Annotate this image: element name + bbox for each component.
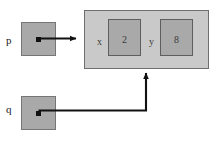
field-value-x: 2	[109, 35, 140, 45]
pointer-label-p: p	[6, 35, 12, 46]
field-label-x: x	[97, 37, 102, 47]
pointer-dot-p	[36, 37, 41, 42]
pointer-dot-q	[36, 111, 41, 116]
pointer-label-q: q	[6, 104, 12, 115]
struct-container[interactable]: x 2 y 8	[84, 10, 209, 69]
pointer-diagram-canvas: p q x 2 y 8	[0, 0, 219, 141]
pointer-box-q[interactable]	[21, 96, 56, 130]
field-box-x[interactable]: 2	[108, 19, 141, 56]
field-label-y: y	[149, 37, 154, 47]
field-value-y: 8	[161, 35, 192, 45]
pointer-box-p[interactable]	[21, 22, 56, 56]
field-box-y[interactable]: 8	[160, 19, 193, 56]
